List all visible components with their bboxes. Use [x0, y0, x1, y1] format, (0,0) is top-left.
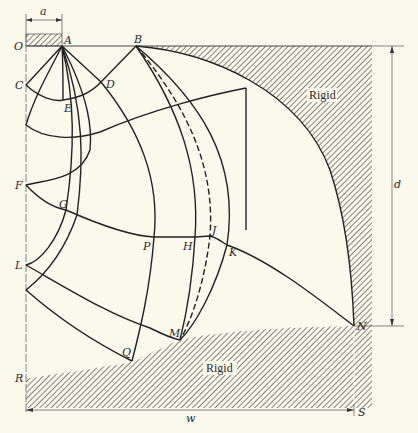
- point-label-d: D: [105, 78, 115, 91]
- slip-line-ac: [26, 46, 62, 85]
- point-label-s: S: [358, 406, 366, 419]
- point-label-g: G: [59, 198, 68, 211]
- point-label-b: B: [133, 33, 142, 46]
- slip-line-ae: [62, 46, 63, 100]
- arrowhead-up-icon: [390, 46, 394, 53]
- point-label-j: J: [210, 224, 217, 237]
- point-label-m: M: [168, 327, 181, 340]
- arrowhead-down-icon: [390, 319, 394, 326]
- arrowhead-right-icon: [56, 18, 62, 22]
- point-label-h: H: [182, 240, 193, 253]
- dimension-label-d: d: [394, 178, 401, 191]
- point-label-r: R: [14, 372, 23, 385]
- slip-line-a-g-l: [26, 46, 72, 265]
- slip-line-fan-1: [26, 46, 62, 125]
- slip-line-b-h-m: [136, 46, 196, 340]
- slip-line-f-g-p-h-j-k-n: [26, 185, 354, 326]
- point-label-p: P: [142, 240, 151, 253]
- arrowhead-left-w-icon: [26, 408, 33, 412]
- slip-line-a-to-left-2: [26, 46, 81, 290]
- point-label-e: E: [63, 102, 72, 115]
- point-label-o: O: [14, 40, 23, 53]
- slip-line-b-k-m: [136, 46, 229, 340]
- point-label-a: A: [63, 34, 72, 47]
- arrowhead-left-icon: [26, 18, 32, 22]
- dimension-label-w: w: [186, 412, 196, 425]
- rigid-label-top: Rigid: [309, 88, 336, 102]
- slip-line-cross-2: [26, 88, 246, 137]
- arrowhead-right-w-icon: [347, 408, 354, 412]
- rigid-region-bottom: [26, 326, 372, 408]
- point-label-q: Q: [122, 346, 131, 359]
- rigid-label-bottom: Rigid: [206, 361, 233, 375]
- diagram-canvas: Rigid Rigid a d w O A B C D E F: [0, 0, 418, 433]
- slip-line-field-figure: Rigid Rigid a d w O A B C D E F: [0, 0, 418, 433]
- point-label-f: F: [14, 179, 23, 192]
- slip-line-to-q: [26, 290, 132, 361]
- dimension-label-a: a: [40, 5, 47, 18]
- slip-line-bd: [101, 46, 136, 82]
- point-label-k: K: [228, 246, 238, 259]
- slip-line-a-f: [26, 46, 91, 185]
- punch-block: [26, 34, 62, 46]
- slip-line-l-m: [26, 265, 180, 340]
- point-label-c: C: [15, 79, 24, 92]
- point-label-n: N: [356, 320, 367, 333]
- point-label-l: L: [14, 259, 22, 272]
